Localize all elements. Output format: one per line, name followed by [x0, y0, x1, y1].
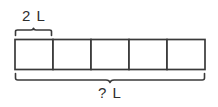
tape-cell [15, 40, 53, 70]
tape-cell [91, 40, 129, 70]
total-label: ? L [71, 85, 149, 100]
tape-cell [53, 40, 91, 70]
tape-diagram: 2 L ? L [0, 0, 218, 107]
total-brace [16, 74, 205, 83]
part-brace [16, 28, 52, 35]
tape-cell [167, 40, 205, 70]
tape-cell [129, 40, 167, 70]
part-label: 2 L [15, 8, 53, 23]
